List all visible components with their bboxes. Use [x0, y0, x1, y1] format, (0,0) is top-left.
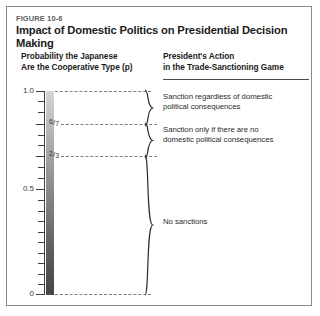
y-axis-minor-tick: [38, 242, 45, 243]
annotation-sanction-regardless-line1: Sanction regardless of domestic: [163, 92, 308, 102]
y-axis-label-0.5: 0.5: [9, 184, 34, 193]
chart-plot-area: 1.0 6/7 2/3 0.5 0 Sanction regardless of…: [7, 7, 312, 306]
y-axis-minor-tick: [38, 211, 45, 212]
y-axis-minor-tick: [38, 167, 45, 168]
dashed-guide-1.0: [55, 91, 151, 92]
annotation-no-sanctions-line1: No sanctions: [163, 217, 308, 227]
y-axis-label-2-3-denominator: 3: [55, 152, 59, 159]
annotation-sanction-regardless-line2: political consequences: [163, 102, 308, 112]
y-axis-minor-tick: [38, 253, 45, 254]
y-axis-label-6-7: 6/7: [49, 118, 59, 127]
y-axis-minor-tick: [38, 263, 45, 264]
y-axis-label-2-3-numerator: 2: [49, 150, 53, 157]
y-axis-label-1.0: 1.0: [9, 86, 34, 95]
y-axis-tick-0: [36, 294, 45, 295]
y-axis-minor-tick: [38, 232, 45, 233]
annotation-no-sanctions: No sanctions: [163, 217, 308, 227]
y-axis-minor-tick: [38, 200, 45, 201]
y-axis-tick-2-3: [36, 156, 45, 157]
y-axis-minor-tick: [38, 145, 45, 146]
annotation-sanction-conditional-line2: domestic political consequences: [163, 135, 308, 145]
y-axis-label-0: 0: [9, 289, 34, 298]
brace-no-sanctions: [143, 154, 155, 296]
y-axis-minor-tick: [38, 101, 45, 102]
y-axis-label-2-3: 2/3: [49, 150, 59, 159]
y-axis-minor-tick: [38, 221, 45, 222]
y-axis-minor-tick: [38, 178, 45, 179]
y-axis-line: [44, 91, 45, 295]
annotation-sanction-conditional-line1: Sanction only if there are no: [163, 125, 308, 135]
y-axis-minor-tick: [38, 112, 45, 113]
y-axis-minor-tick: [38, 284, 45, 285]
y-axis-label-6-7-numerator: 6: [49, 118, 53, 125]
y-axis-label-6-7-denominator: 7: [55, 120, 59, 127]
dashed-guide-0: [55, 294, 151, 295]
figure-panel: FIGURE 10-6 Impact of Domestic Politics …: [6, 6, 312, 306]
annotation-sanction-regardless: Sanction regardless of domestic politica…: [163, 92, 308, 111]
y-axis-tick-6-7: [36, 124, 45, 125]
y-axis-minor-tick: [38, 135, 45, 136]
y-axis-tick-0.5: [36, 189, 45, 190]
y-axis-minor-tick: [38, 274, 45, 275]
annotation-sanction-conditional: Sanction only if there are no domestic p…: [163, 125, 308, 144]
y-axis-tick-1.0: [36, 91, 45, 92]
